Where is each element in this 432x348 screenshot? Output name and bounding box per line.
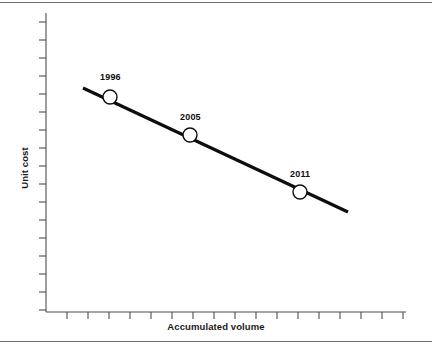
plot-area — [0, 0, 432, 348]
trend-line — [83, 88, 348, 212]
y-axis-ticks — [39, 22, 46, 310]
x-axis-ticks — [67, 312, 403, 319]
y-axis-title: Unit cost — [19, 147, 30, 189]
chart-figure: 1996 2005 2011 Accumulated volume Unit c… — [0, 0, 432, 348]
data-point-label-2011: 2011 — [290, 169, 310, 179]
data-point-marker-2005[interactable] — [183, 128, 197, 142]
data-point-label-1996: 1996 — [100, 72, 121, 82]
data-point-marker-2011[interactable] — [293, 185, 307, 199]
x-axis-title: Accumulated volume — [0, 321, 432, 332]
data-point-label-2005: 2005 — [180, 112, 201, 122]
data-point-marker-1996[interactable] — [103, 90, 117, 104]
